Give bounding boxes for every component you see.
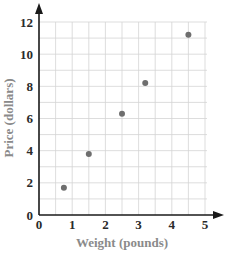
data-point — [86, 151, 92, 157]
y-tick-label: 12 — [20, 15, 33, 30]
y-tick-labels: 024681012 — [20, 15, 34, 223]
x-tick-label: 2 — [102, 217, 109, 232]
y-tick-label: 2 — [27, 175, 34, 190]
data-point — [61, 185, 67, 191]
data-point — [119, 111, 125, 117]
x-axis-label: Weight (pounds) — [76, 235, 168, 250]
y-axis-arrow-icon — [35, 3, 43, 14]
x-tick-label: 3 — [135, 217, 142, 232]
y-tick-label: 4 — [27, 143, 34, 158]
x-tick-labels: 012345 — [36, 217, 209, 232]
x-tick-label: 4 — [169, 217, 176, 232]
scatter-chart: 012345 024681012 Weight (pounds) Price (… — [0, 0, 228, 256]
y-tick-label: 0 — [27, 208, 34, 223]
x-tick-label: 5 — [202, 217, 209, 232]
x-tick-label: 0 — [36, 217, 43, 232]
y-axis-label: Price (dollars) — [1, 78, 16, 157]
y-tick-label: 8 — [27, 79, 34, 94]
x-tick-label: 1 — [69, 217, 76, 232]
y-tick-label: 6 — [27, 111, 34, 126]
data-point — [185, 32, 191, 38]
data-point — [142, 80, 148, 86]
x-axis-arrow-icon — [213, 211, 224, 219]
y-tick-label: 10 — [20, 47, 33, 62]
